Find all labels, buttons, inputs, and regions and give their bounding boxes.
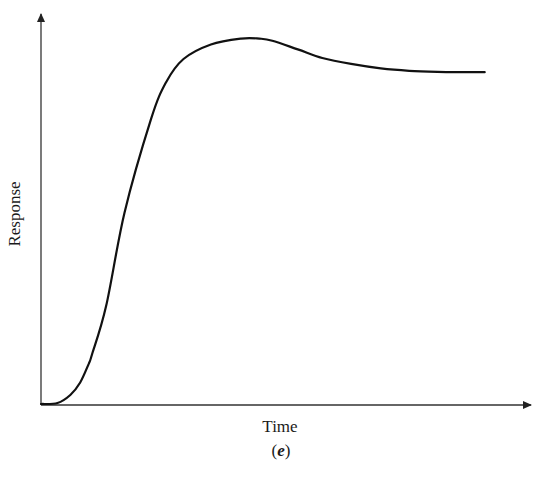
y-axis-label: Response — [5, 181, 24, 246]
response-chart: Response Time (e) — [0, 0, 534, 490]
x-axis-label: Time — [262, 417, 297, 436]
response-curve — [41, 38, 485, 404]
figure-caption: (e) — [272, 441, 291, 460]
caption-close-paren: ) — [285, 441, 291, 460]
